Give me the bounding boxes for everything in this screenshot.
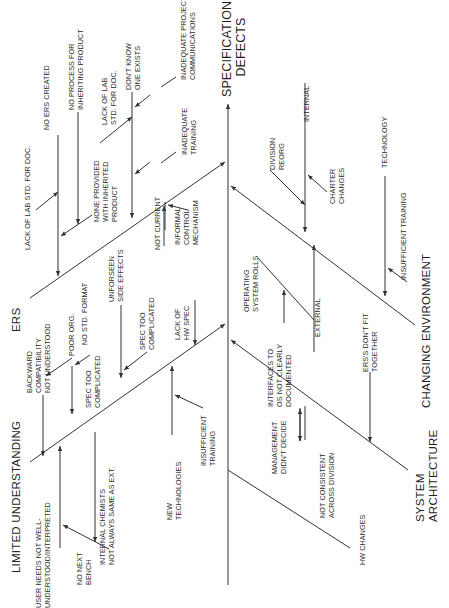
label-insufficient-training-1: INSUFFICIENT TRAINING — [199, 415, 217, 466]
label-none-provided: NONE PROVIDED WITH INHERITED PRODUCT — [92, 160, 119, 222]
label-no-ers-created: NO ERS CREATED — [42, 65, 51, 130]
label-hw-changes: HW CHANGES — [358, 514, 367, 565]
category-changing-environment: CHANGING ENVIRONMENT — [420, 254, 433, 408]
category-limited-understanding: LIMITED UNDERSTANDING — [10, 421, 23, 573]
label-ers-dont-fit: ERS'S DON'T FIT TOGETHER — [361, 313, 379, 372]
label-informal-control: INFORMAL CONTROL MECHANISM — [173, 200, 200, 245]
label-operating-system-rolls: OPERATING SYSTEM ROLLS — [242, 256, 260, 312]
label-unforseen: UNFORSEEN SIDE EFFECTS — [107, 249, 125, 302]
label-insufficient-training-2: INSUFFICIENT TRAINING — [399, 192, 408, 280]
category-ers: ERS — [10, 308, 23, 332]
label-no-std-format: NO STD. FORMAT — [80, 283, 89, 345]
label-inadequate-training: INADEQUATE TRAINING — [180, 108, 198, 155]
label-division-reorg: DIVISION REORG — [268, 138, 286, 170]
label-charter-changes: CHARTER CHANGES — [328, 168, 346, 204]
bone-system-architecture — [231, 340, 408, 470]
label-poor-org: POOR ORG. — [67, 314, 76, 356]
label-not-current: NOT CURRENT — [153, 197, 162, 250]
label-internal: INTERNAL — [302, 86, 311, 122]
fishbone-diagram: SPECIFICATIONS DEFECTS ERS LIMITED UNDER… — [0, 0, 449, 608]
label-no-process-inheriting: NO PROCESS FOR INHERITING PRODUCT — [67, 29, 85, 110]
label-backward-compat: BACKWARD COMPATIBILITY NOT UNDERSTOOD — [25, 324, 52, 393]
label-inadequate-project-comm: INADEQUATE PROJECT COMMUNICATIONS — [179, 0, 197, 80]
label-no-next-bench: NO NEXT BENCH — [75, 552, 93, 585]
label-user-needs: USER NEEDS NOT WELL- UNDERSTOOD/INTERPRE… — [34, 502, 52, 608]
label-interfaces-os: INTERFACES TO OS NOT CLEARLY DOCUMENTED — [266, 344, 293, 407]
label-spec-too-complicated-2: SPEC TOO COMPLICATED — [138, 298, 156, 350]
label-lack-lab-std-1: LACK OF LAB STD. FOR DOC. — [23, 146, 32, 250]
label-internal-chemists: INTERNAL CHEMISTS NOT ALWAYS SAME AS EXT… — [98, 467, 116, 565]
label-spec-too-complicated-1: SPEC TOO COMPLICATED — [84, 356, 102, 408]
effect-title: SPECIFICATIONS DEFECTS — [221, 0, 248, 97]
label-external: EXTERNAL — [313, 298, 322, 337]
bone-limited-understanding — [30, 324, 225, 462]
label-not-consistent: NOT CONSISTENT ACROSS DIVISION — [318, 453, 336, 518]
label-lack-hw-spec: LACK OF HW SPEC — [173, 306, 191, 340]
label-new-technologies: NEW TECHNOLOGIES — [165, 462, 183, 520]
label-lack-lab-std-2: LACK OF LAB STD. FOR DOC. — [100, 70, 118, 125]
category-system-architecture: SYSTEM ARCHITECTURE — [414, 430, 440, 523]
label-management-didnt: MANAGEMENT DIDN'T DECIDE — [270, 420, 288, 474]
label-dont-know: DON'T KNOW ONE EXISTS — [124, 43, 142, 90]
label-technology: TECHNOLOGY — [380, 117, 389, 168]
